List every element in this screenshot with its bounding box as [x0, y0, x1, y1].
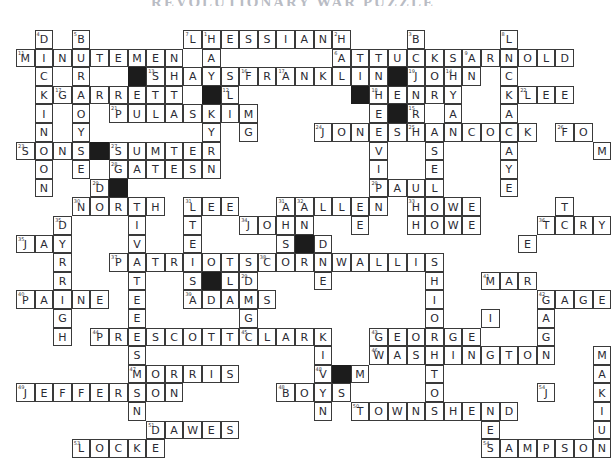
grid-cell[interactable]: R: [109, 328, 128, 347]
grid-cell[interactable]: R: [518, 272, 537, 291]
grid-cell[interactable]: C: [109, 439, 128, 458]
grid-cell[interactable]: S: [239, 253, 258, 272]
grid-cell[interactable]: 3B: [407, 30, 426, 49]
grid-cell[interactable]: A: [351, 253, 370, 272]
grid-cell[interactable]: 19J: [407, 67, 426, 86]
grid-cell[interactable]: T: [165, 142, 184, 161]
grid-cell[interactable]: I: [35, 49, 54, 68]
grid-cell[interactable]: M: [518, 439, 537, 458]
grid-cell[interactable]: A: [593, 365, 611, 384]
grid-cell[interactable]: U: [128, 104, 147, 123]
grid-cell[interactable]: 48B: [276, 383, 295, 402]
grid-cell[interactable]: E: [518, 235, 537, 254]
grid-cell[interactable]: 51D: [146, 421, 165, 440]
grid-cell[interactable]: O: [574, 123, 593, 142]
grid-cell[interactable]: R: [481, 49, 500, 68]
grid-cell[interactable]: M: [128, 49, 147, 68]
grid-cell[interactable]: R: [165, 365, 184, 384]
grid-cell[interactable]: E: [555, 86, 574, 105]
grid-cell[interactable]: T: [221, 328, 240, 347]
grid-cell[interactable]: A: [444, 104, 463, 123]
grid-cell[interactable]: E: [314, 272, 333, 291]
grid-cell[interactable]: R: [109, 197, 128, 216]
grid-cell[interactable]: 47M: [128, 365, 147, 384]
grid-cell[interactable]: S: [221, 365, 240, 384]
grid-cell[interactable]: L: [146, 104, 165, 123]
grid-cell[interactable]: O: [518, 346, 537, 365]
grid-cell[interactable]: H: [425, 346, 444, 365]
grid-cell[interactable]: K: [202, 104, 221, 123]
grid-cell[interactable]: W: [444, 197, 463, 216]
grid-cell[interactable]: T: [90, 49, 109, 68]
grid-cell[interactable]: E: [35, 383, 54, 402]
grid-cell[interactable]: 30N: [72, 197, 91, 216]
grid-cell[interactable]: C: [555, 216, 574, 235]
grid-cell[interactable]: O: [276, 253, 295, 272]
grid-cell[interactable]: O: [72, 104, 91, 123]
grid-cell[interactable]: R: [53, 272, 72, 291]
grid-cell[interactable]: I: [314, 346, 333, 365]
grid-cell[interactable]: T: [425, 365, 444, 384]
grid-cell[interactable]: E: [72, 160, 91, 179]
grid-cell[interactable]: I: [183, 253, 202, 272]
grid-cell[interactable]: U: [128, 142, 147, 161]
grid-cell[interactable]: E: [128, 290, 147, 309]
grid-cell[interactable]: 29D: [90, 179, 109, 198]
grid-cell[interactable]: I: [369, 160, 388, 179]
grid-cell[interactable]: O: [425, 216, 444, 235]
grid-cell[interactable]: 29P: [369, 179, 388, 198]
grid-cell[interactable]: W: [332, 253, 351, 272]
grid-cell[interactable]: T: [221, 253, 240, 272]
grid-cell[interactable]: C: [500, 67, 519, 86]
grid-cell[interactable]: K: [518, 123, 537, 142]
grid-cell[interactable]: 31L: [183, 197, 202, 216]
grid-cell[interactable]: N: [462, 67, 481, 86]
grid-cell[interactable]: N: [369, 197, 388, 216]
grid-cell[interactable]: G: [444, 328, 463, 347]
grid-cell[interactable]: E: [183, 235, 202, 254]
grid-cell[interactable]: 34J: [239, 216, 258, 235]
grid-cell[interactable]: S: [221, 421, 240, 440]
grid-cell[interactable]: N: [593, 439, 611, 458]
grid-cell[interactable]: 35J: [16, 235, 35, 254]
grid-cell[interactable]: 4D: [35, 30, 54, 49]
grid-cell[interactable]: I: [53, 290, 72, 309]
grid-cell[interactable]: 21P: [109, 104, 128, 123]
grid-cell[interactable]: H: [165, 67, 184, 86]
grid-cell[interactable]: O: [258, 216, 277, 235]
grid-cell[interactable]: L: [425, 179, 444, 198]
grid-cell[interactable]: 17A: [276, 67, 295, 86]
grid-cell[interactable]: L: [388, 253, 407, 272]
grid-cell[interactable]: A: [388, 346, 407, 365]
grid-cell[interactable]: 16F: [239, 67, 258, 86]
grid-cell[interactable]: R: [109, 86, 128, 105]
grid-cell[interactable]: H: [425, 272, 444, 291]
grid-cell[interactable]: T: [165, 86, 184, 105]
grid-cell[interactable]: 29D: [239, 272, 258, 291]
grid-cell[interactable]: S: [555, 439, 574, 458]
grid-cell[interactable]: R: [165, 253, 184, 272]
grid-cell[interactable]: W: [388, 402, 407, 421]
grid-cell[interactable]: N: [369, 67, 388, 86]
grid-cell[interactable]: R: [109, 383, 128, 402]
grid-cell[interactable]: C: [462, 123, 481, 142]
grid-cell[interactable]: S: [444, 49, 463, 68]
grid-cell[interactable]: 28G: [109, 160, 128, 179]
grid-cell[interactable]: S: [388, 123, 407, 142]
grid-cell[interactable]: N: [462, 346, 481, 365]
grid-cell[interactable]: 27S: [109, 142, 128, 161]
grid-cell[interactable]: S: [221, 67, 240, 86]
grid-cell[interactable]: F: [72, 383, 91, 402]
grid-cell[interactable]: L: [221, 272, 240, 291]
grid-cell[interactable]: A: [202, 49, 221, 68]
grid-cell[interactable]: 54S: [481, 439, 500, 458]
grid-cell[interactable]: S: [258, 30, 277, 49]
grid-cell[interactable]: S: [407, 346, 426, 365]
grid-cell[interactable]: O: [202, 253, 221, 272]
grid-cell[interactable]: N: [444, 123, 463, 142]
grid-cell[interactable]: S: [258, 290, 277, 309]
grid-cell[interactable]: 18H: [369, 86, 388, 105]
grid-cell[interactable]: E: [146, 439, 165, 458]
grid-cell[interactable]: O: [183, 328, 202, 347]
